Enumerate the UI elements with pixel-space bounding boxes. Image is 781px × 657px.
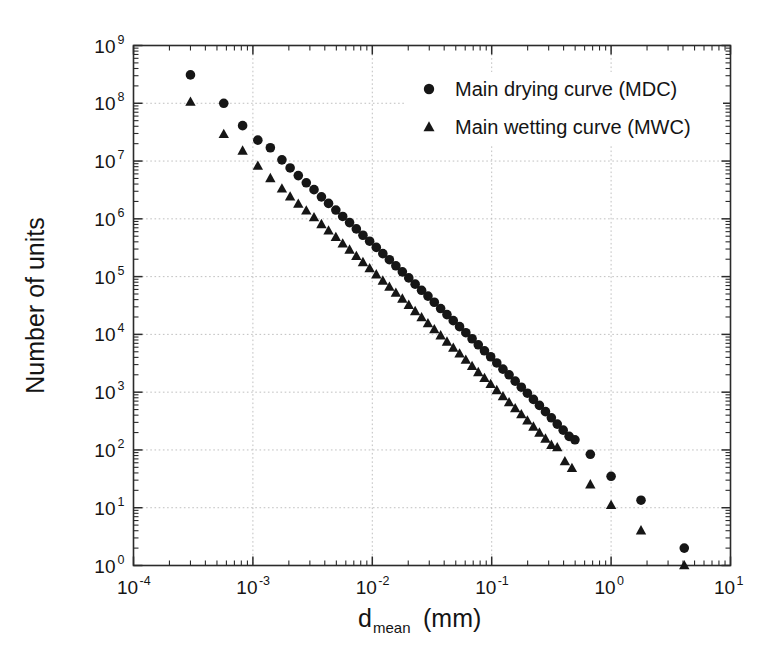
svg-text:7: 7 (118, 148, 125, 162)
legend-entry[interactable]: Main wetting curve (MWC) (424, 116, 691, 138)
svg-text:5: 5 (118, 264, 125, 278)
svg-text:10: 10 (94, 440, 115, 461)
chart-legend: Main drying curve (MDC)Main wetting curv… (405, 72, 723, 144)
svg-text:1: 1 (737, 574, 744, 588)
data-point-circle (636, 495, 646, 505)
legend-marker-circle (424, 84, 434, 94)
svg-text:-1: -1 (498, 574, 509, 588)
svg-text:1: 1 (118, 495, 125, 509)
svg-text:-4: -4 (140, 574, 151, 588)
svg-text:10: 10 (117, 577, 138, 598)
svg-text:6: 6 (118, 206, 125, 220)
x-axis-title-base: d (358, 604, 372, 632)
svg-text:10: 10 (94, 324, 115, 345)
y-axis-title: Number of units (21, 217, 49, 393)
data-point-circle (317, 192, 327, 202)
legend-label: Main drying curve (MDC) (455, 78, 677, 100)
svg-text:2: 2 (118, 437, 125, 451)
data-point-circle (586, 450, 596, 460)
data-point-circle (186, 70, 196, 80)
x-axis-title-subscript: mean (373, 619, 411, 636)
svg-text:-2: -2 (378, 574, 389, 588)
data-point-circle (266, 143, 276, 153)
data-point-circle (277, 155, 287, 165)
svg-text:0: 0 (118, 553, 125, 567)
svg-text:10: 10 (94, 498, 115, 519)
svg-text:10: 10 (94, 556, 115, 577)
data-point-circle (324, 199, 334, 209)
svg-text:10: 10 (236, 577, 257, 598)
data-point-circle (679, 543, 689, 553)
data-point-circle (253, 135, 263, 145)
svg-text:10: 10 (356, 577, 377, 598)
svg-text:10: 10 (94, 36, 115, 57)
svg-text:10: 10 (714, 577, 735, 598)
data-point-circle (219, 98, 229, 108)
data-point-circle (293, 171, 303, 181)
svg-text:8: 8 (118, 90, 125, 104)
svg-text:10: 10 (94, 151, 115, 172)
svg-text:10: 10 (94, 267, 115, 288)
data-point-circle (238, 121, 248, 131)
svg-text:10: 10 (475, 577, 496, 598)
svg-text:10: 10 (94, 382, 115, 403)
x-axis-title-unit: (mm) (423, 604, 481, 632)
legend-entry[interactable]: Main drying curve (MDC) (424, 78, 677, 100)
svg-text:10: 10 (94, 93, 115, 114)
svg-text:10: 10 (595, 577, 616, 598)
svg-text:9: 9 (118, 33, 125, 47)
legend-label: Main wetting curve (MWC) (455, 116, 691, 138)
svg-text:0: 0 (617, 574, 624, 588)
data-point-circle (301, 178, 311, 188)
data-point-circle (309, 185, 319, 195)
data-point-circle (606, 471, 616, 481)
chart-figure: 10-410-310-210-1100101 10010110210310410… (0, 0, 781, 657)
data-point-circle (570, 435, 580, 445)
svg-text:-3: -3 (259, 574, 270, 588)
scatter-plot: 10-410-310-210-1100101 10010110210310410… (0, 0, 781, 657)
svg-text:4: 4 (118, 321, 125, 335)
svg-text:3: 3 (118, 379, 125, 393)
svg-text:10: 10 (94, 209, 115, 230)
data-point-circle (285, 163, 295, 173)
